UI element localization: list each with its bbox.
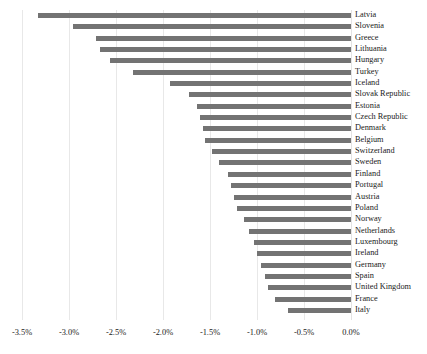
x-tick-label: -2.5%: [106, 328, 126, 337]
category-label-iceland: Iceland: [355, 77, 379, 88]
bar-row: Denmark: [22, 123, 351, 134]
bar-row: Switzerland: [22, 146, 351, 157]
bar-row: Germany: [22, 260, 351, 271]
bar-denmark[interactable]: [203, 126, 351, 131]
category-label-germany: Germany: [355, 259, 386, 270]
bar-chart: LatviaSloveniaGreeceLithuaniaHungaryTurk…: [0, 0, 427, 354]
bar-czech-republic[interactable]: [200, 115, 351, 120]
category-label-norway: Norway: [355, 213, 382, 224]
bar-row: Greece: [22, 33, 351, 44]
x-tick-label: -2.0%: [153, 328, 173, 337]
bar-row: Slovenia: [22, 21, 351, 32]
bar-slovak-republic[interactable]: [189, 92, 351, 97]
category-label-portugal: Portugal: [355, 179, 383, 190]
bar-row: Ireland: [22, 248, 351, 259]
bar-austria[interactable]: [234, 195, 351, 200]
bar-row: Luxembourg: [22, 237, 351, 248]
bar-row: Slovak Republic: [22, 89, 351, 100]
bar-row: Lithuania: [22, 44, 351, 55]
bar-spain[interactable]: [265, 274, 351, 279]
bar-row: Spain: [22, 271, 351, 282]
category-label-netherlands: Netherlands: [355, 225, 395, 236]
bar-luxembourg[interactable]: [254, 240, 351, 245]
bar-hungary[interactable]: [110, 58, 351, 63]
bar-row: United Kingdom: [22, 282, 351, 293]
category-label-turkey: Turkey: [355, 66, 379, 77]
bar-row: Estonia: [22, 101, 351, 112]
bar-poland[interactable]: [237, 206, 351, 211]
category-label-slovak-republic: Slovak Republic: [355, 88, 410, 99]
bar-row: Sweden: [22, 157, 351, 168]
plot-area: LatviaSloveniaGreeceLithuaniaHungaryTurk…: [22, 10, 351, 320]
bar-italy[interactable]: [288, 308, 351, 313]
bar-france[interactable]: [275, 297, 351, 302]
x-tick-label: -3.0%: [59, 328, 79, 337]
bar-norway[interactable]: [244, 217, 351, 222]
category-label-austria: Austria: [355, 191, 379, 202]
category-label-belgium: Belgium: [355, 134, 384, 145]
bar-united-kingdom[interactable]: [268, 285, 351, 290]
category-label-switzerland: Switzerland: [355, 145, 395, 156]
x-tick-label: -1.0%: [247, 328, 267, 337]
bar-row: Iceland: [22, 78, 351, 89]
bar-finland[interactable]: [228, 172, 351, 177]
bar-row: Portugal: [22, 180, 351, 191]
bar-iceland[interactable]: [170, 81, 351, 86]
bar-row: Finland: [22, 169, 351, 180]
x-tick-label: 0.0%: [342, 328, 359, 337]
bar-slovenia[interactable]: [73, 24, 351, 29]
bar-belgium[interactable]: [205, 138, 351, 143]
category-label-slovenia: Slovenia: [355, 20, 384, 31]
bar-germany[interactable]: [261, 263, 351, 268]
x-tick-label: -1.5%: [200, 328, 220, 337]
category-label-latvia: Latvia: [355, 9, 376, 20]
bar-lithuania[interactable]: [100, 47, 351, 52]
bar-portugal[interactable]: [231, 183, 351, 188]
bar-ireland[interactable]: [257, 251, 351, 256]
category-label-luxembourg: Luxembourg: [355, 236, 398, 247]
bar-latvia[interactable]: [38, 13, 351, 18]
bar-sweden[interactable]: [219, 160, 351, 165]
bar-switzerland[interactable]: [212, 149, 351, 154]
category-label-sweden: Sweden: [355, 156, 381, 167]
x-axis: -3.5%-3.0%-2.5%-2.0%-1.5%-1.0%-0.5%0.0%: [0, 328, 427, 342]
gridline-00: [351, 10, 352, 320]
bar-row: Belgium: [22, 135, 351, 146]
category-label-france: France: [355, 293, 378, 304]
bar-row: Poland: [22, 203, 351, 214]
category-label-greece: Greece: [355, 32, 379, 43]
x-tick-label: -3.5%: [12, 328, 32, 337]
category-label-united-kingdom: United Kingdom: [355, 281, 411, 292]
bar-row: Turkey: [22, 67, 351, 78]
category-label-denmark: Denmark: [355, 122, 386, 133]
bar-netherlands[interactable]: [249, 229, 351, 234]
category-label-ireland: Ireland: [355, 247, 379, 258]
bar-row: Latvia: [22, 10, 351, 21]
category-label-spain: Spain: [355, 270, 374, 281]
category-label-poland: Poland: [355, 202, 378, 213]
bar-row: Italy: [22, 305, 351, 316]
category-label-lithuania: Lithuania: [355, 43, 387, 54]
x-tick-label: -0.5%: [294, 328, 314, 337]
category-label-hungary: Hungary: [355, 54, 384, 65]
category-label-czech-republic: Czech Republic: [355, 111, 408, 122]
category-label-estonia: Estonia: [355, 100, 380, 111]
bar-row: Norway: [22, 214, 351, 225]
bar-row: Netherlands: [22, 226, 351, 237]
bar-row: Austria: [22, 192, 351, 203]
bar-series: LatviaSloveniaGreeceLithuaniaHungaryTurk…: [22, 10, 351, 320]
bar-row: Hungary: [22, 55, 351, 66]
bar-row: France: [22, 294, 351, 305]
category-label-finland: Finland: [355, 168, 380, 179]
bar-estonia[interactable]: [197, 104, 351, 109]
bar-turkey[interactable]: [133, 70, 351, 75]
bar-greece[interactable]: [96, 36, 351, 41]
category-label-italy: Italy: [355, 304, 370, 315]
bar-row: Czech Republic: [22, 112, 351, 123]
